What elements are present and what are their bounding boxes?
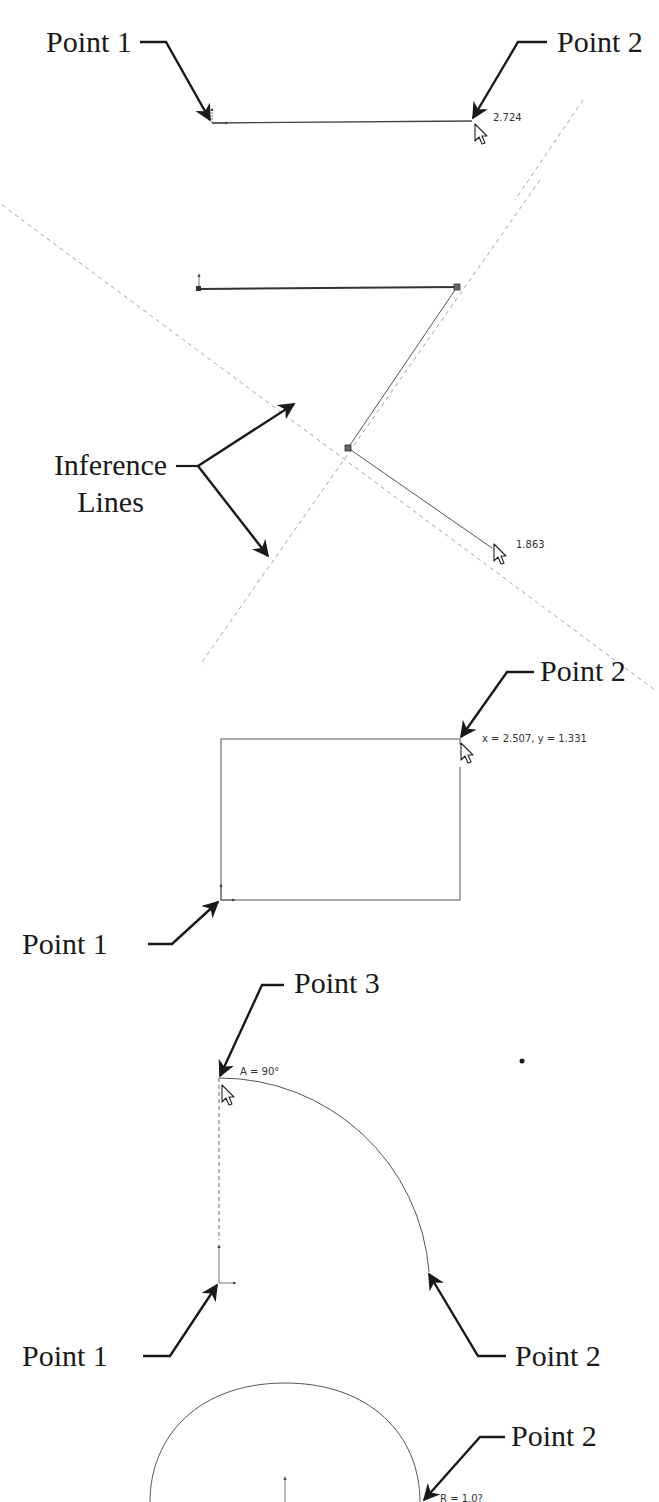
panel-rectangle bbox=[148, 672, 534, 944]
callout-label-inference: Inference bbox=[48, 450, 173, 480]
sketch-line-angled bbox=[348, 287, 457, 448]
callout-leader-point2 bbox=[429, 1274, 506, 1356]
panel-circle bbox=[150, 1383, 505, 1502]
callout-label-lines: Lines bbox=[48, 487, 173, 517]
callout-leader-inference-lower bbox=[198, 466, 268, 556]
panel-inference bbox=[2, 180, 655, 690]
sketch-arc bbox=[219, 1078, 429, 1272]
arrow-cursor-icon bbox=[222, 1085, 234, 1105]
callout-label-point3: Point 3 bbox=[294, 968, 380, 998]
endpoint-square-icon bbox=[196, 286, 201, 291]
sketch-canvas bbox=[0, 0, 659, 1502]
dimension-angle: A = 90° bbox=[240, 1067, 279, 1077]
stray-dot bbox=[520, 1059, 525, 1064]
dimension-length: 2.724 bbox=[493, 113, 522, 123]
sketch-rectangle bbox=[221, 739, 460, 900]
panel-arc bbox=[143, 985, 525, 1356]
endpoint-square-icon bbox=[345, 445, 351, 451]
dimension-length: 1.863 bbox=[516, 540, 545, 550]
callout-label-point2: Point 2 bbox=[515, 1341, 601, 1371]
callout-leader-point3 bbox=[220, 985, 284, 1076]
callout-leader-point1 bbox=[143, 1285, 217, 1356]
sketch-line-active bbox=[348, 448, 492, 548]
callout-leader-point1 bbox=[140, 42, 210, 120]
endpoint-square-icon bbox=[454, 284, 460, 290]
sketch-line bbox=[212, 121, 472, 123]
dimension-coordinates: x = 2.507, y = 1.331 bbox=[482, 734, 587, 744]
callout-label-point1: Point 1 bbox=[22, 929, 108, 959]
origin-axes-icon bbox=[212, 108, 228, 123]
callout-label-point2: Point 2 bbox=[540, 656, 626, 686]
callout-leader-inference-upper bbox=[198, 404, 294, 466]
dimension-radius: R = 1.0? bbox=[440, 1494, 483, 1502]
arrow-cursor-icon bbox=[494, 544, 506, 564]
callout-label-point2: Point 2 bbox=[557, 27, 643, 57]
callout-leader-point2 bbox=[473, 42, 547, 118]
callout-leader-point2 bbox=[461, 672, 534, 737]
callout-label-point1: Point 1 bbox=[22, 1341, 108, 1371]
origin-axes-icon bbox=[221, 884, 235, 900]
callout-label-point2: Point 2 bbox=[511, 1421, 597, 1451]
callout-label-point1: Point 1 bbox=[46, 27, 132, 57]
inference-line-steep bbox=[200, 180, 540, 665]
arrow-cursor-icon bbox=[475, 124, 487, 144]
sketch-line-horizontal bbox=[199, 287, 457, 289]
origin-axes-icon bbox=[219, 1245, 236, 1283]
callout-leader-point2 bbox=[424, 1437, 505, 1500]
callout-leader-point1 bbox=[148, 902, 218, 944]
